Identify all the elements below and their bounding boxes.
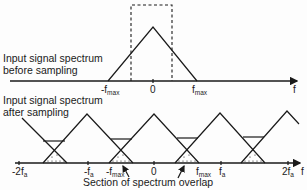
bottom-caption-line2: after sampling [3, 106, 69, 118]
aliasing-diagram: Input signal spectrum before sampling -f… [0, 0, 307, 190]
overlap-caption: Section of spectrum overlap [83, 176, 213, 188]
bottom-caption-line1: Input signal spectrum [3, 94, 103, 106]
bottom-label-neg-2fs: -2fa [12, 166, 28, 178]
diagram-canvas: Input signal spectrum before sampling -f… [0, 0, 307, 190]
bottom-label-fs: fa [219, 166, 226, 178]
baseband-spectrum-triangle [108, 27, 197, 81]
top-label-zero: 0 [150, 84, 156, 95]
top-caption-line1: Input signal spectrum [3, 52, 103, 64]
top-label-fmax: fmax [192, 84, 208, 96]
top-caption-line2: before sampling [3, 64, 78, 76]
top-panel: Input signal spectrum before sampling -f… [3, 5, 297, 96]
bottom-label-2fs: 2fa [282, 166, 294, 178]
bottom-axis-label-f: f [301, 166, 304, 177]
top-label-neg-fmax: -fmax [101, 84, 120, 96]
bottom-panel: Input signal spectrum after sampling [3, 94, 304, 188]
top-axis-label-f: f [293, 84, 296, 95]
